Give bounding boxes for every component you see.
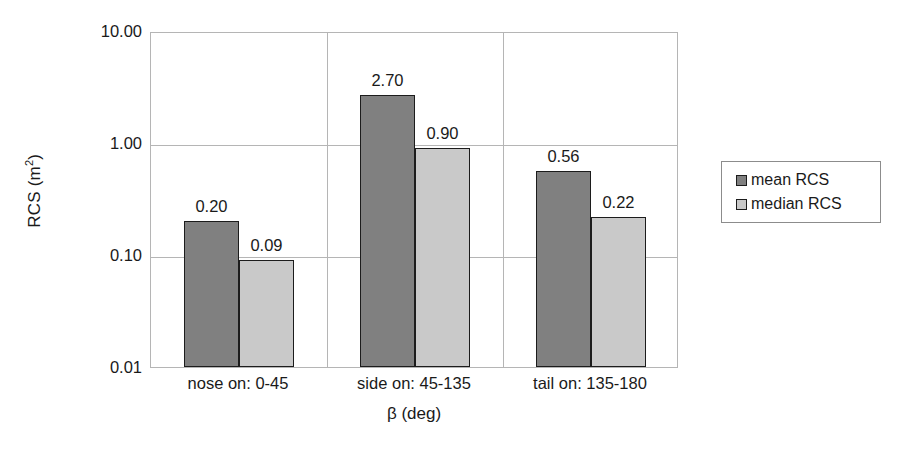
legend-item-label: median RCS: [751, 196, 842, 212]
y-axis-tick-label: 0.01: [78, 359, 142, 375]
y-axis-title-base: RCS (m: [25, 166, 44, 228]
gridline-vertical: [503, 33, 504, 367]
bar-value-label: 0.22: [576, 193, 661, 212]
legend-swatch-icon: [736, 175, 747, 186]
rcs-bar-chart: RCS (m2) 10.001.000.100.01 0.200.092.700…: [0, 0, 912, 453]
bar-value-label: 0.56: [521, 147, 606, 166]
bar-value-label: 0.90: [400, 124, 485, 143]
y-axis-title-exponent: 2: [23, 160, 35, 166]
bar-value-label: 0.20: [169, 197, 254, 216]
bar-median-rcs-group-3: [591, 217, 646, 367]
y-axis-tick-label: 10.00: [78, 23, 142, 39]
legend-item-label: mean RCS: [751, 172, 829, 188]
x-axis-category-label: tail on: 135-180: [502, 374, 678, 393]
y-axis-tick-label: 1.00: [78, 135, 142, 151]
bar-median-rcs-group-1: [239, 260, 294, 367]
y-axis-tick-label: 0.10: [78, 247, 142, 263]
x-axis-category-label: side on: 45-135: [326, 374, 502, 393]
y-axis-tick-labels: 10.001.000.100.01: [78, 0, 142, 453]
x-axis-category-labels: nose on: 0-45side on: 45-135tail on: 135…: [150, 374, 678, 400]
plot-area: 0.200.092.700.900.560.22: [150, 32, 678, 368]
chart-legend: mean RCSmedian RCS: [721, 161, 881, 223]
y-axis-title: RCS (m2): [23, 111, 45, 271]
bar-value-label: 0.09: [224, 236, 309, 255]
legend-item-mean[interactable]: mean RCS: [736, 168, 880, 192]
legend-item-median[interactable]: median RCS: [736, 192, 880, 216]
x-axis-title: β (deg): [150, 404, 678, 424]
bar-value-label: 2.70: [345, 71, 430, 90]
x-axis-category-label: nose on: 0-45: [150, 374, 326, 393]
legend-swatch-icon: [736, 199, 747, 210]
y-axis-title-tail: ): [25, 154, 44, 160]
gridline-vertical: [327, 33, 328, 367]
bar-median-rcs-group-2: [415, 148, 470, 367]
